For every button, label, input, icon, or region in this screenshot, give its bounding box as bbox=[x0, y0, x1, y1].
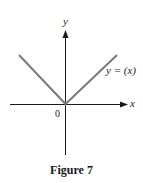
y-axis-arrow-icon bbox=[63, 30, 69, 38]
graph-canvas bbox=[0, 0, 143, 183]
curve-label: y = (x) bbox=[106, 65, 136, 76]
figure-caption: Figure 7 bbox=[0, 164, 143, 176]
x-axis-arrow-icon bbox=[120, 102, 128, 108]
figure-7: y x 0 y = (x) Figure 7 bbox=[0, 0, 143, 183]
abs-value-curve bbox=[19, 55, 117, 104]
x-axis-label: x bbox=[130, 98, 135, 109]
origin-label: 0 bbox=[55, 109, 60, 119]
y-axis-label: y bbox=[63, 16, 68, 27]
